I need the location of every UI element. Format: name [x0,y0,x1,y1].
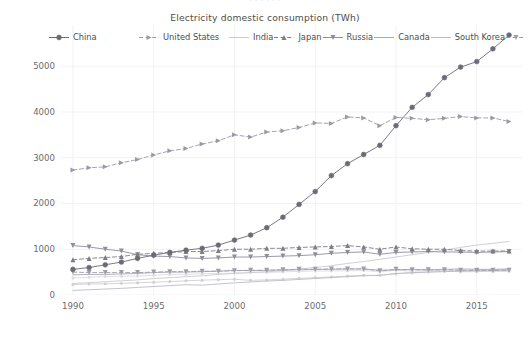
series-marker [264,225,269,230]
series-marker [104,282,107,285]
chart-title: Electricity domestic consumption (TWh) [0,12,530,23]
series-marker [201,279,204,282]
y-tick-label: 1000 [3,244,55,254]
series-marker [119,260,124,265]
series-marker [345,114,350,119]
legend-swatch-icon [273,32,295,43]
series-marker [313,189,318,194]
legend-item-india[interactable]: India [228,31,273,44]
series-marker [135,256,140,261]
series-marker [297,202,302,207]
y-tick-label: 0 [3,290,55,300]
legend-item-germany[interactable]: Germany [505,31,530,44]
series-marker [88,276,91,279]
series-marker [200,141,205,146]
series-marker [120,275,123,278]
series-marker [297,125,302,130]
clipped-header-text: . . . . . . [0,0,530,4]
y-axis-labels: 010002000300040005000 [0,25,55,295]
legend-item-south-korea[interactable]: South Korea [430,31,505,44]
series-marker [458,114,463,119]
series-marker [281,215,286,220]
series-marker [120,282,123,285]
legend-label: United States [163,33,219,41]
x-tick-label: 2005 [304,301,326,311]
series-marker [345,161,350,166]
series-marker [377,123,382,128]
series-marker [103,262,108,267]
series-marker [249,279,252,282]
series-marker [394,123,399,128]
series-marker [152,281,155,284]
y-tick-label: 2000 [3,198,55,208]
legend-label: South Korea [455,33,505,41]
legend-label: Canada [398,33,430,41]
series-marker [167,148,172,153]
series-marker [491,46,496,51]
legend-swatch-icon [322,32,344,43]
chart-legend: ChinaUnited StatesIndiaJapanRussiaCanada… [48,31,530,44]
series-marker [104,275,107,278]
series-marker [442,75,447,80]
chart-plot-svg [60,25,522,295]
series-marker [248,233,253,238]
series-marker [280,128,285,133]
legend-item-china[interactable]: China [48,31,138,44]
legend-label: China [73,33,97,41]
legend-swatch-icon [430,32,452,43]
series-marker [71,277,74,280]
series-marker [248,135,253,140]
legend-swatch-icon [373,32,395,43]
legend-item-united-states[interactable]: United States [138,31,228,44]
y-tick-label: 3000 [3,153,55,163]
series-marker [264,130,269,135]
series-marker [507,119,512,124]
series-marker [216,138,221,143]
series-marker [490,115,495,120]
series-marker [361,115,366,120]
series-marker [410,116,415,121]
series-marker [329,173,334,178]
legend-swatch-icon [505,32,527,43]
legend-label: India [253,33,273,41]
chart-figure: . . . . . . Electricity domestic consump… [0,0,530,339]
series-marker [184,248,189,253]
series-marker [217,278,220,281]
series-marker [136,281,139,284]
x-tick-label: 1995 [143,301,165,311]
x-tick-label: 2000 [224,301,246,311]
legend-swatch-icon [48,32,70,43]
series-marker [232,238,237,243]
series-marker [377,143,382,148]
series-marker [167,250,172,255]
series-marker [184,146,189,151]
series-marker [442,116,447,121]
legend-item-japan[interactable]: Japan [273,31,321,44]
series-marker [361,152,366,157]
x-tick-label: 2015 [466,301,488,311]
series-marker [426,92,431,97]
legend-item-russia[interactable]: Russia [322,31,374,44]
legend-item-canada[interactable]: Canada [373,31,430,44]
series-united-states [70,114,511,173]
series-marker [119,160,124,165]
series-marker [71,267,76,272]
x-axis-labels: 199019952000200520102015 [60,297,522,315]
series-marker [216,243,221,248]
x-tick-label: 2010 [385,301,407,311]
series-marker [87,265,92,270]
legend-label: Russia [347,33,374,41]
series-marker [200,246,205,251]
series-marker [233,278,236,281]
y-tick-label: 5000 [3,61,55,71]
legend-label: Japan [298,33,321,41]
series-marker [185,279,188,282]
plot-area [60,25,522,295]
series-marker [458,65,463,70]
y-tick-label: 4000 [3,107,55,117]
series-marker [329,121,334,126]
series-line [73,117,509,171]
x-tick-label: 1990 [62,301,84,311]
series-marker [168,280,171,283]
series-line [73,35,509,269]
